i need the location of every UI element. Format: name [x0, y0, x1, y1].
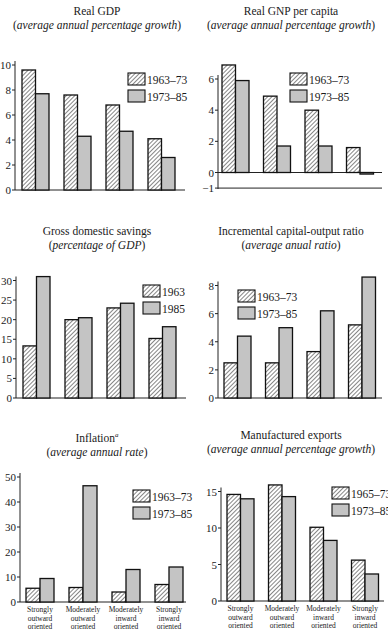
bar: [362, 277, 376, 398]
bar: [222, 65, 236, 173]
bar: [64, 95, 78, 190]
panel-gross-domestic-savings: Gross domestic savings (percentage of GD…: [0, 210, 194, 420]
bar: [126, 570, 140, 603]
legend-swatch: [128, 90, 145, 102]
bar: [65, 320, 79, 398]
category-label: oriented: [71, 622, 96, 631]
y-tick-label: 10: [0, 59, 12, 71]
category-label: oriented: [114, 622, 139, 631]
bar-chart-real-gdp: 02468101963–731973–85: [0, 0, 194, 210]
bar: [163, 327, 177, 398]
bar: [23, 346, 37, 398]
legend-label: 1985: [162, 303, 185, 315]
bar: [26, 588, 40, 602]
bar: [36, 94, 50, 190]
y-tick-label: 4: [209, 104, 215, 116]
bar: [236, 81, 250, 173]
bar: [107, 308, 121, 398]
legend-label: 1973–85: [257, 308, 298, 320]
y-tick-label: 20: [1, 314, 13, 326]
y-tick-label: 15: [1, 333, 13, 345]
bar: [324, 540, 338, 601]
y-tick-label: 2: [6, 159, 12, 171]
y-tick-label: 10: [5, 571, 17, 583]
y-tick-label: 4: [6, 134, 12, 146]
panel-manufactured-exports: Manufactured exports (average annual per…: [194, 420, 388, 638]
bar: [155, 585, 169, 603]
bar: [307, 352, 321, 398]
bar: [224, 363, 238, 398]
bar: [365, 574, 379, 601]
bar: [120, 131, 134, 190]
legend-label: 1963–73: [257, 291, 298, 303]
y-tick-label: 0: [6, 184, 12, 196]
y-tick-label: 6: [209, 308, 215, 320]
y-tick-label: 0: [209, 167, 215, 179]
legend-label: 1963–73: [309, 74, 350, 86]
bar: [349, 325, 363, 398]
legend-swatch: [290, 90, 307, 102]
bar: [305, 110, 319, 172]
y-tick-label: 8: [6, 84, 12, 96]
legend-label: 1973–85: [147, 91, 188, 103]
bar: [282, 497, 296, 601]
y-tick-label: 8: [209, 280, 215, 292]
bar: [277, 146, 291, 172]
bar: [269, 485, 283, 601]
legend-label: 1963–73: [152, 491, 193, 503]
legend-label: 1973–85: [309, 91, 350, 103]
y-tick-label: 30: [1, 275, 13, 287]
legend-swatch: [238, 290, 255, 302]
legend-swatch: [133, 490, 150, 502]
bar-chart-inflation: 01020304050StronglyoutwardorientedModera…: [0, 420, 194, 638]
panel-incremental-capital-output-ratio: Incremental capital-output ratio (averag…: [194, 210, 388, 420]
y-tick-label: 4: [209, 336, 215, 348]
legend-label: 1963–73: [147, 74, 188, 86]
bar: [22, 70, 36, 190]
y-tick-label: 0: [11, 596, 17, 608]
bar-chart-icor: 024681963–731973–85: [194, 210, 388, 420]
bar: [169, 567, 183, 602]
bar: [241, 499, 255, 601]
bar: [78, 136, 92, 190]
y-tick-label: 40: [5, 496, 17, 508]
legend-label: 1973–85: [351, 505, 388, 517]
y-tick-label: 2: [209, 135, 215, 147]
bar: [106, 105, 120, 190]
bar: [40, 579, 54, 603]
bar: [347, 148, 361, 173]
legend-label: 1965–73: [351, 488, 388, 500]
bar: [352, 560, 366, 601]
panel-real-gdp: Real GDP (average annual percentage grow…: [0, 0, 194, 210]
category-label: oriented: [353, 621, 378, 630]
y-tick-label: 6: [6, 109, 12, 121]
bar: [279, 328, 293, 398]
y-tick-label: 10: [1, 353, 13, 365]
y-tick-label: 5: [7, 372, 13, 384]
panel-real-gnp-per-capita: Real GNP per capita (average annual perc…: [194, 0, 388, 210]
bar: [264, 96, 278, 172]
category-label: oriented: [28, 622, 53, 631]
y-tick-label: 0: [212, 595, 218, 607]
y-tick-label: 30: [5, 521, 17, 533]
legend-swatch: [332, 504, 349, 516]
legend-swatch: [332, 487, 349, 499]
category-label: oriented: [157, 622, 182, 631]
bar: [266, 363, 280, 398]
legend-swatch: [143, 302, 160, 314]
bar: [321, 311, 335, 398]
y-tick-label: 15: [206, 486, 218, 498]
legend-swatch: [238, 307, 255, 319]
y-tick-label: 25: [1, 294, 13, 306]
bar: [79, 318, 93, 398]
bar: [319, 146, 333, 172]
y-tick-label: 0: [209, 392, 215, 404]
bar: [238, 336, 252, 398]
y-tick-label: 6: [209, 73, 215, 85]
category-label: oriented: [270, 621, 295, 630]
y-tick-label: 20: [5, 546, 17, 558]
legend-swatch: [133, 507, 150, 519]
bar: [360, 173, 374, 175]
bar: [37, 277, 51, 398]
category-label: oriented: [311, 621, 336, 630]
